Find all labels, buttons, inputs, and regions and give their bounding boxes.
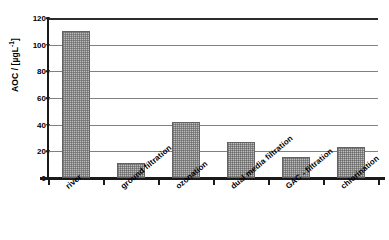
y-axis-tick-group: 020406080100120 — [18, 18, 46, 178]
y-tick-label-120: 120 — [22, 14, 46, 23]
y-tick-label-100: 100 — [22, 40, 46, 49]
y-tick-label-40: 40 — [22, 120, 46, 129]
y-tick-label-80: 80 — [22, 67, 46, 76]
y-tick-label-20: 20 — [22, 147, 46, 156]
bar-chart-figure: AOC / [µgL-1] 020406080100120 rivergroun… — [0, 0, 389, 240]
y-tick-label-60: 60 — [22, 94, 46, 103]
y-axis-title-exponent: -1 — [8, 41, 15, 47]
x-axis-label-group: riverground filtrationozonationdual medi… — [48, 184, 389, 240]
bar-river — [62, 31, 90, 178]
